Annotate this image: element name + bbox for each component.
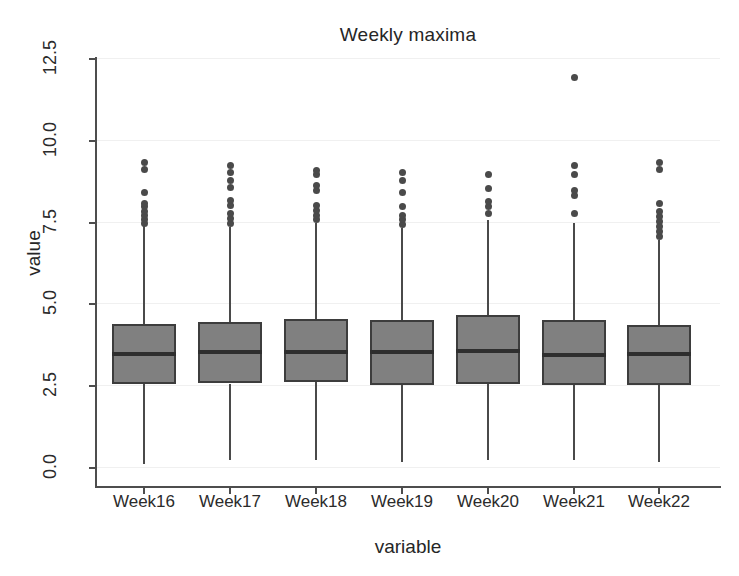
outlier-point-Week19-4	[399, 189, 406, 196]
outlier-point-Week21-0	[571, 210, 578, 217]
y-tick-mark-7.5	[89, 222, 96, 224]
y-tick-label-12.5: 12.5	[40, 32, 61, 84]
x-tick-label-Week21: Week21	[529, 492, 619, 512]
x-tick-label-Week17: Week17	[185, 492, 275, 512]
x-tick-label-Week18: Week18	[271, 492, 361, 512]
outlier-point-Week21-2	[571, 187, 578, 194]
whisker-upper-Week22	[658, 240, 660, 325]
whisker-lower-Week22	[658, 385, 660, 462]
x-tick-label-Week16: Week16	[99, 492, 189, 512]
outlier-point-Week19-2	[399, 212, 406, 219]
outlier-point-Week20-0	[485, 210, 492, 217]
y-tick-label-5.0: 5.0	[40, 277, 61, 329]
y-tick-mark-10.0	[89, 140, 96, 142]
median-line-Week17	[198, 350, 262, 354]
outlier-point-Week22-5	[656, 208, 663, 215]
outlier-point-Week17-5	[227, 184, 234, 191]
whisker-upper-Week18	[315, 223, 317, 319]
boxplot-figure: Weekly maxima value variable 0.02.55.07.…	[0, 0, 739, 576]
whisker-lower-Week21	[573, 385, 575, 460]
outlier-point-Week19-3	[399, 203, 406, 210]
outlier-point-Week16-8	[141, 159, 148, 166]
outlier-point-Week17-4	[227, 197, 234, 204]
outlier-point-Week20-2	[485, 198, 492, 205]
outlier-point-Week19-6	[399, 169, 406, 176]
median-line-Week22	[627, 352, 691, 356]
outlier-point-Week21-3	[571, 171, 578, 178]
y-tick-label-10.0: 10.0	[40, 114, 61, 166]
whisker-upper-Week19	[401, 228, 403, 320]
gridline-2.5	[97, 385, 720, 386]
median-line-Week21	[542, 353, 606, 357]
outlier-point-Week16-5	[141, 200, 148, 207]
outlier-point-Week18-5	[313, 182, 320, 189]
y-tick-label-2.5: 2.5	[40, 359, 61, 411]
outlier-point-Week20-3	[485, 185, 492, 192]
y-tick-mark-2.5	[89, 385, 96, 387]
whisker-lower-Week19	[401, 385, 403, 462]
median-line-Week19	[370, 350, 434, 354]
median-line-Week18	[284, 350, 348, 354]
whisker-lower-Week20	[487, 384, 489, 460]
whisker-upper-Week16	[143, 225, 145, 324]
x-tick-label-Week20: Week20	[443, 492, 533, 512]
median-line-Week20	[456, 349, 520, 353]
outlier-point-Week19-5	[399, 177, 406, 184]
y-tick-label-7.5: 7.5	[40, 196, 61, 248]
outlier-point-Week22-6	[656, 200, 663, 207]
whisker-lower-Week16	[143, 384, 145, 464]
gridline-10.0	[97, 140, 720, 141]
gridline-7.5	[97, 222, 720, 223]
chart-title: Weekly maxima	[96, 24, 720, 46]
outlier-point-Week17-2	[227, 210, 234, 217]
median-line-Week16	[112, 352, 176, 356]
x-tick-label-Week19: Week19	[357, 492, 447, 512]
outlier-point-Week16-7	[141, 166, 148, 173]
outlier-point-Week21-4	[571, 162, 578, 169]
outlier-point-Week16-6	[141, 189, 148, 196]
gridline-0.0	[97, 467, 720, 468]
outlier-point-Week22-8	[656, 159, 663, 166]
outlier-point-Week21-5	[571, 74, 578, 81]
outlier-point-Week17-8	[227, 162, 234, 169]
y-tick-mark-12.5	[89, 58, 96, 60]
whisker-upper-Week17	[229, 227, 231, 323]
y-axis-line	[95, 57, 97, 488]
x-axis-line	[95, 486, 721, 488]
outlier-point-Week18-7	[313, 167, 320, 174]
whisker-upper-Week20	[487, 220, 489, 315]
y-tick-label-0.0: 0.0	[40, 441, 61, 493]
y-tick-mark-0.0	[89, 467, 96, 469]
whisker-upper-Week21	[573, 223, 575, 320]
outlier-point-Week17-6	[227, 177, 234, 184]
outlier-point-Week18-3	[313, 202, 320, 209]
whisker-lower-Week17	[229, 384, 231, 460]
outlier-point-Week22-7	[656, 166, 663, 173]
outlier-point-Week17-7	[227, 169, 234, 176]
outlier-point-Week20-4	[485, 171, 492, 178]
gridline-12.5	[97, 58, 720, 59]
x-axis-title: variable	[96, 536, 720, 558]
y-tick-mark-5.0	[89, 303, 96, 305]
gridline-5.0	[97, 303, 720, 304]
whisker-lower-Week18	[315, 382, 317, 460]
x-tick-label-Week22: Week22	[614, 492, 704, 512]
